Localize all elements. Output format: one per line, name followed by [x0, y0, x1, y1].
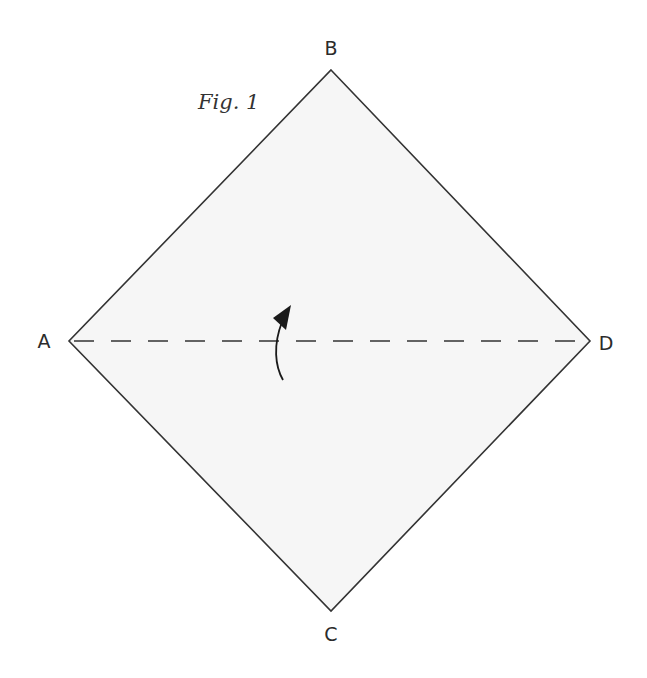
vertex-label-a: A: [38, 330, 51, 352]
vertex-label-b: B: [324, 37, 337, 59]
origami-diagram: B A D C Fig. 1: [0, 0, 647, 678]
vertex-label-c: C: [324, 623, 337, 645]
vertex-label-d: D: [599, 332, 614, 354]
figure-caption: Fig. 1: [197, 90, 259, 114]
square-paper: [69, 70, 590, 611]
